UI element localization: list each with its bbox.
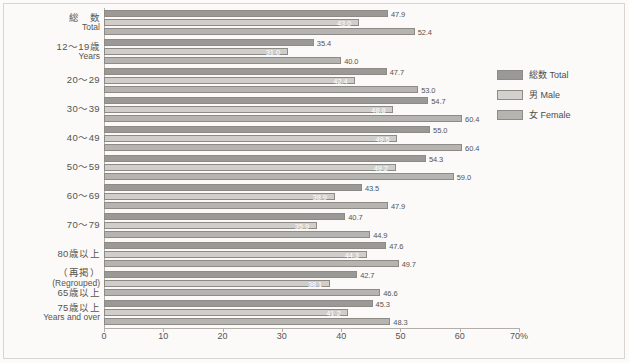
bar-male[interactable] [104, 106, 393, 113]
value-axis-tick-label: 50 [380, 331, 420, 341]
bar-total[interactable] [104, 97, 428, 104]
bar-value-label: 47.6 [389, 241, 403, 250]
bar-male[interactable] [104, 193, 335, 200]
legend-item-male[interactable]: 男 Male [497, 86, 619, 103]
bar-male[interactable] [104, 222, 317, 229]
bar-total[interactable] [104, 271, 357, 278]
category-label: 40〜49 [0, 133, 100, 144]
bar-value-label: 38.9 [313, 192, 327, 201]
chart-legend: 総数 Total男 Male女 Female [497, 66, 619, 126]
bar-row: 49.7 [104, 260, 519, 267]
category-label: 30〜39 [0, 104, 100, 115]
bar-total[interactable] [104, 68, 387, 75]
bar-value-label: 47.7 [390, 67, 404, 76]
bar-value-label: 49.7 [402, 259, 416, 268]
bar-value-label: 38.1 [308, 279, 322, 288]
bar-male[interactable] [104, 135, 397, 142]
bar-value-label: 54.3 [429, 154, 443, 163]
bar-row: 45.3 [104, 300, 519, 307]
bar-female[interactable] [104, 260, 399, 267]
bar-row: 35.9 [104, 222, 519, 229]
bar-row: 60.4 [104, 144, 519, 151]
bar-male[interactable] [104, 48, 288, 55]
bar-row: 31.0 [104, 48, 519, 55]
category-label: 70〜79 [0, 220, 100, 231]
bar-total[interactable] [104, 155, 426, 162]
bar-value-label: 47.9 [391, 9, 405, 18]
bar-female[interactable] [104, 318, 390, 325]
bar-value-label: 41.2 [326, 308, 340, 317]
bar-value-label: 42.7 [360, 270, 374, 279]
bar-row: 48.3 [104, 318, 519, 325]
bar-value-label: 44.3 [345, 250, 359, 259]
bar-value-label: 46.6 [383, 288, 397, 297]
plot-area: 47.943.052.435.431.040.047.742.453.054.7… [104, 8, 519, 326]
bar-value-label: 35.9 [295, 221, 309, 230]
bar-female[interactable] [104, 28, 415, 35]
bar-total[interactable] [104, 126, 430, 133]
bar-value-label: 35.4 [317, 38, 331, 47]
bar-row: 49.5 [104, 135, 519, 142]
bar-female[interactable] [104, 231, 370, 238]
bar-male[interactable] [104, 280, 330, 287]
bar-row: 44.3 [104, 251, 519, 258]
legend-item-female[interactable]: 女 Female [497, 106, 619, 123]
legend-item-total[interactable]: 総数 Total [497, 66, 619, 83]
bar-male[interactable] [104, 164, 396, 171]
bar-row: 54.7 [104, 97, 519, 104]
legend-swatch-total [497, 70, 523, 80]
bar-value-label: 40.7 [348, 212, 362, 221]
bar-female[interactable] [104, 86, 418, 93]
bar-value-label: 48.3 [393, 317, 407, 326]
bar-row: 38.9 [104, 193, 519, 200]
legend-swatch-male [497, 90, 523, 100]
category-label: 20〜29 [0, 75, 100, 86]
bar-male[interactable] [104, 309, 348, 316]
bar-row: 41.2 [104, 309, 519, 316]
bar-row: 43.5 [104, 184, 519, 191]
bar-value-label: 47.9 [391, 201, 405, 210]
legend-swatch-female [497, 110, 523, 120]
bar-value-label: 48.8 [371, 105, 385, 114]
bar-female[interactable] [104, 173, 454, 180]
bar-row: 52.4 [104, 28, 519, 35]
bar-female[interactable] [104, 144, 462, 151]
bar-row: 59.0 [104, 173, 519, 180]
bar-row: 47.9 [104, 10, 519, 17]
bar-male[interactable] [104, 77, 355, 84]
bar-total[interactable] [104, 184, 362, 191]
bar-value-label: 43.0 [337, 18, 351, 27]
bar-row: 47.9 [104, 202, 519, 209]
bar-female[interactable] [104, 115, 462, 122]
bar-total[interactable] [104, 10, 388, 17]
bar-total[interactable] [104, 213, 345, 220]
legend-label: 総数 Total [529, 68, 569, 81]
bar-male[interactable] [104, 19, 359, 26]
bar-male[interactable] [104, 251, 367, 258]
bar-value-label: 31.0 [266, 47, 280, 56]
bar-value-label: 44.9 [373, 230, 387, 239]
bar-value-label: 53.0 [421, 85, 435, 94]
bar-value-label: 60.4 [465, 143, 479, 152]
bar-total[interactable] [104, 39, 314, 46]
bar-row: 54.3 [104, 155, 519, 162]
bar-female[interactable] [104, 202, 388, 209]
bar-value-label: 59.0 [457, 172, 471, 181]
bar-row: 46.6 [104, 289, 519, 296]
legend-label: 男 Male [529, 88, 560, 101]
category-label: 12〜19歳Years [0, 42, 100, 62]
bar-row: 44.9 [104, 231, 519, 238]
chart-container: 47.943.052.435.431.040.047.742.453.054.7… [0, 0, 629, 363]
bar-value-label: 49.5 [375, 134, 389, 143]
bar-row: 47.6 [104, 242, 519, 249]
bar-total[interactable] [104, 300, 373, 307]
bar-total[interactable] [104, 242, 386, 249]
bar-female[interactable] [104, 57, 341, 64]
bar-row: 40.0 [104, 57, 519, 64]
value-axis-tick-label: 60 [440, 331, 480, 341]
bar-value-label: 49.2 [374, 163, 388, 172]
value-axis-tick-label: 20 [203, 331, 243, 341]
bar-female[interactable] [104, 289, 380, 296]
bar-value-label: 42.4 [333, 76, 347, 85]
bar-value-label: 60.4 [465, 114, 479, 123]
